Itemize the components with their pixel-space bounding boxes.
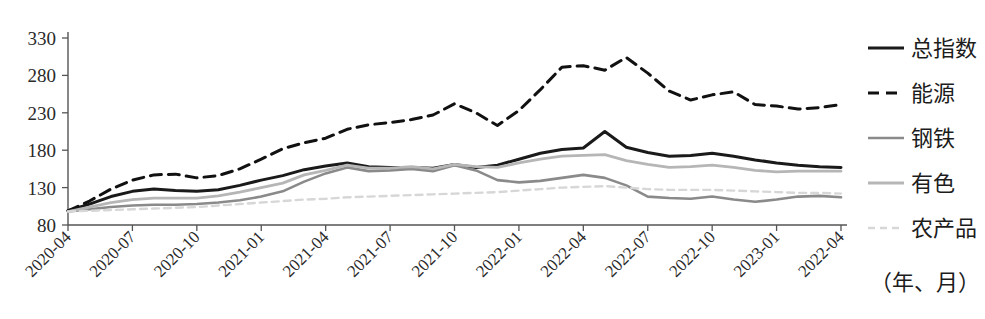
- x-tick-label: 2021-10: [408, 227, 462, 281]
- legend-label-4: 农产品: [911, 216, 977, 241]
- legend-label-3: 有色: [911, 171, 955, 196]
- line-chart: 80130180230280330 2020-042020-072020-102…: [0, 0, 985, 319]
- x-tick-label: 2020-10: [150, 227, 204, 281]
- legend-label-2: 钢铁: [911, 126, 955, 151]
- x-tick-label: 2021-07: [343, 227, 397, 281]
- x-tick-label: 2022-07: [601, 227, 655, 281]
- x-axis: 2020-042020-072020-102021-012021-042021-…: [21, 225, 848, 281]
- x-tick-label: 2021-04: [279, 227, 333, 281]
- y-tick-label: 230: [28, 103, 57, 124]
- legend-label-0: 总指数: [911, 36, 977, 61]
- y-tick-label: 80: [37, 215, 56, 236]
- legend-label-1: 能源: [911, 81, 955, 106]
- y-tick-label: 130: [28, 178, 57, 199]
- x-tick-label: 2022-10: [665, 227, 719, 281]
- x-tick-label: 2022-01: [472, 227, 526, 281]
- y-axis: 80130180230280330: [28, 28, 69, 236]
- x-tick-label: 2021-01: [215, 227, 269, 281]
- y-tick-label: 330: [28, 28, 57, 49]
- x-tick-label: 2023-01: [730, 227, 784, 281]
- series-line-3: [68, 155, 841, 212]
- x-tick-label: 2022-04: [537, 227, 591, 281]
- y-tick-label: 180: [28, 140, 57, 161]
- series-lines: [68, 57, 841, 211]
- y-tick-label: 280: [28, 65, 57, 86]
- series-line-2: [68, 165, 841, 211]
- series-line-1: [68, 57, 841, 210]
- legend: 总指数能源钢铁有色农产品（年、月）: [868, 36, 980, 295]
- x-axis-unit-note: （年、月）: [870, 270, 980, 295]
- x-tick-label: 2022-04: [794, 227, 848, 281]
- x-tick-label: 2020-07: [86, 227, 140, 281]
- chart-container: 80130180230280330 2020-042020-072020-102…: [0, 0, 985, 319]
